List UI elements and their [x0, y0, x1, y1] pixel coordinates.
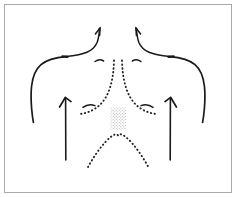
xiphoid-stipple-patch [111, 108, 127, 130]
right-chest-up-arrow [165, 97, 176, 160]
right-inframammary-arc [141, 105, 153, 108]
right-suprasternal-arc [132, 60, 141, 62]
left-inframammary-arc [83, 105, 95, 108]
right-neck-contour [136, 28, 170, 57]
costal-margin-dotted-arch [88, 134, 148, 167]
left-neck-arrowhead-icon [95, 28, 100, 36]
left-shoulder-arm-contour [31, 57, 66, 123]
figure-root: Anterior thorax line drawing Schematic a… [0, 0, 236, 197]
left-suprasternal-arc [95, 60, 104, 62]
right-neck-arrowhead-icon [136, 28, 141, 36]
anatomical-diagram-canvas [0, 0, 236, 197]
right-shoulder-arm-contour [170, 57, 205, 123]
left-neck-contour [66, 28, 100, 57]
left-chest-up-arrow [60, 97, 71, 160]
